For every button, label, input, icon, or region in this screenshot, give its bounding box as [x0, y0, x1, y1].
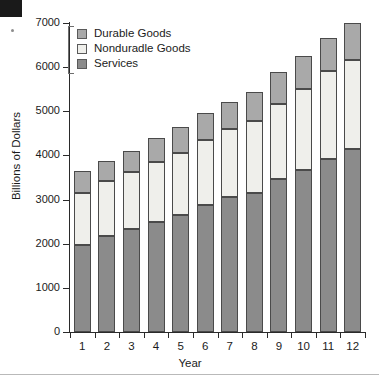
- x-axis-tick: [340, 333, 341, 338]
- bar-segment-nondurable-goods[interactable]: [344, 60, 361, 149]
- bar-segment-nondurable-goods[interactable]: [295, 89, 312, 170]
- legend-swatch-nondurable-goods: [77, 44, 87, 54]
- bar-segment-durable-goods[interactable]: [148, 138, 165, 162]
- x-axis-tick-label: 4: [143, 340, 169, 352]
- bar-year-7[interactable]: [221, 23, 238, 332]
- x-axis-tick: [144, 333, 145, 338]
- bar-segment-nondurable-goods[interactable]: [197, 140, 214, 205]
- bar-segment-services[interactable]: [197, 205, 214, 332]
- bar-year-12[interactable]: [344, 23, 361, 332]
- bar-segment-durable-goods[interactable]: [246, 92, 263, 120]
- legend-swatch-services: [77, 59, 87, 69]
- bar-segment-services[interactable]: [74, 245, 91, 332]
- x-axis-tick: [119, 333, 120, 338]
- chart-legend: Durable Goods Nonduradle Goods Services: [68, 26, 218, 71]
- x-axis-tick: [70, 333, 71, 338]
- bar-segment-services[interactable]: [172, 215, 189, 332]
- legend-item-durable-goods: Durable Goods: [77, 26, 218, 41]
- x-axis-tick-label: 9: [266, 340, 292, 352]
- y-axis-tick-label: 1000: [14, 281, 60, 293]
- legend-label-nondurable-goods: Nonduradle Goods: [94, 43, 191, 55]
- bar-segment-durable-goods[interactable]: [74, 171, 91, 193]
- y-axis-tick: [63, 288, 69, 289]
- y-axis-tick: [63, 23, 69, 24]
- bar-segment-durable-goods[interactable]: [320, 38, 337, 72]
- bar-year-8[interactable]: [246, 23, 263, 332]
- y-axis-tick: [63, 200, 69, 201]
- bar-segment-services[interactable]: [295, 170, 312, 332]
- bar-segment-durable-goods[interactable]: [344, 23, 361, 60]
- x-axis-tick-label: 6: [192, 340, 218, 352]
- legend-bracket: [68, 26, 74, 74]
- x-axis-tick: [316, 333, 317, 338]
- x-axis-tick-label: 7: [217, 340, 243, 352]
- x-axis-title: Year: [150, 357, 230, 369]
- bar-segment-nondurable-goods[interactable]: [148, 162, 165, 222]
- x-axis-tick-label: 3: [118, 340, 144, 352]
- bar-segment-services[interactable]: [123, 229, 140, 332]
- bar-segment-nondurable-goods[interactable]: [320, 71, 337, 158]
- y-axis-tick-label: 2000: [14, 237, 60, 249]
- y-axis-tick-label: 7000: [14, 16, 60, 28]
- bar-segment-durable-goods[interactable]: [270, 72, 287, 104]
- legend-item-services: Services: [77, 56, 218, 71]
- bar-segment-nondurable-goods[interactable]: [270, 104, 287, 179]
- bar-segment-nondurable-goods[interactable]: [221, 129, 238, 197]
- bar-segment-nondurable-goods[interactable]: [172, 153, 189, 215]
- bar-year-10[interactable]: [295, 23, 312, 332]
- y-axis-tick: [63, 155, 69, 156]
- x-axis-tick: [168, 333, 169, 338]
- legend-label-services: Services: [94, 58, 138, 70]
- x-axis-tick-label: 12: [340, 340, 366, 352]
- bar-year-9[interactable]: [270, 23, 287, 332]
- bar-segment-services[interactable]: [270, 179, 287, 332]
- legend-label-durable-goods: Durable Goods: [94, 28, 171, 40]
- bar-segment-durable-goods[interactable]: [197, 113, 214, 140]
- y-axis-tick: [63, 111, 69, 112]
- legend-swatch-durable-goods: [77, 29, 87, 39]
- x-axis-tick-label: 1: [69, 340, 95, 352]
- x-axis-tick: [291, 333, 292, 338]
- y-axis-title: Billions of Dollars: [10, 96, 22, 216]
- y-axis-tick-label: 6000: [14, 60, 60, 72]
- bar-year-11[interactable]: [320, 23, 337, 332]
- bar-segment-services[interactable]: [221, 197, 238, 332]
- y-axis-tick: [63, 332, 69, 333]
- x-axis-tick-label: 8: [241, 340, 267, 352]
- stacked-bar-chart: 01000200030004000500060007000 1234567891…: [0, 0, 379, 383]
- bar-segment-services[interactable]: [320, 159, 337, 332]
- x-axis-tick: [193, 333, 194, 338]
- x-axis-tick: [95, 333, 96, 338]
- legend-item-nondurable-goods: Nonduradle Goods: [77, 41, 218, 56]
- x-axis-tick-label: 5: [168, 340, 194, 352]
- y-axis-tick: [63, 244, 69, 245]
- bar-segment-services[interactable]: [344, 149, 361, 332]
- y-axis-tick-label: 0: [14, 325, 60, 337]
- bar-segment-services[interactable]: [246, 193, 263, 332]
- bar-segment-nondurable-goods[interactable]: [74, 193, 91, 245]
- bar-segment-nondurable-goods[interactable]: [123, 172, 140, 229]
- bar-segment-durable-goods[interactable]: [98, 161, 115, 181]
- x-axis-tick: [267, 333, 268, 338]
- x-axis-tick: [242, 333, 243, 338]
- bar-segment-durable-goods[interactable]: [123, 151, 140, 172]
- bar-segment-nondurable-goods[interactable]: [98, 181, 115, 236]
- x-axis-tick-label: 11: [315, 340, 341, 352]
- x-axis-tick: [218, 333, 219, 338]
- bar-segment-durable-goods[interactable]: [172, 127, 189, 153]
- bar-segment-services[interactable]: [148, 222, 165, 332]
- x-axis-tick-label: 2: [94, 340, 120, 352]
- bar-segment-nondurable-goods[interactable]: [246, 121, 263, 193]
- x-axis-tick-label: 10: [291, 340, 317, 352]
- x-axis-tick: [365, 333, 366, 338]
- bar-segment-services[interactable]: [98, 236, 115, 332]
- bar-segment-durable-goods[interactable]: [295, 56, 312, 89]
- bar-segment-durable-goods[interactable]: [221, 102, 238, 129]
